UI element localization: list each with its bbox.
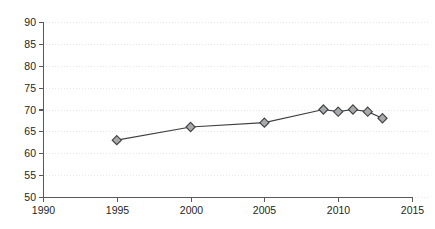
data-point-marker: [363, 107, 372, 116]
chart-canvas: 505560657075808590 199019952000200520102…: [0, 0, 435, 229]
y-tick-label: 50: [24, 191, 36, 203]
x-tick-label: 2000: [180, 204, 204, 216]
x-tick-label: 1990: [32, 204, 56, 216]
y-tick-label: 75: [24, 82, 36, 94]
data-point-marker: [319, 105, 328, 114]
y-tick-label: 65: [24, 125, 36, 137]
x-axis-tick-labels: 199019952000200520102015: [32, 204, 425, 216]
y-tick-label: 85: [24, 38, 36, 50]
y-tick-label: 70: [24, 104, 36, 116]
data-point-marker: [334, 107, 343, 116]
y-axis-ticks: [39, 23, 43, 198]
data-series-line: [117, 110, 383, 141]
x-tick-label: 2015: [401, 204, 425, 216]
y-tick-label: 55: [24, 169, 36, 181]
y-axis-tick-labels: 505560657075808590: [24, 16, 36, 203]
y-tick-label: 60: [24, 147, 36, 159]
data-point-marker: [260, 118, 269, 127]
y-tick-label: 90: [24, 16, 36, 28]
data-point-marker: [348, 105, 357, 114]
y-tick-label: 80: [24, 60, 36, 72]
x-tick-label: 1995: [106, 204, 130, 216]
data-point-marker: [186, 122, 195, 131]
x-tick-label: 2005: [253, 204, 277, 216]
x-tick-label: 2010: [327, 204, 351, 216]
series-polyline: [117, 110, 383, 141]
line-chart: 505560657075808590 199019952000200520102…: [0, 0, 435, 229]
data-point-marker: [112, 136, 121, 145]
data-point-marker: [378, 114, 387, 123]
